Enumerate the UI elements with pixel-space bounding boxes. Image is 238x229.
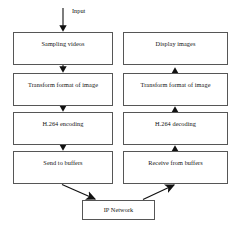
node-transform-format-decode[interactable]: Transform format of image bbox=[123, 73, 228, 106]
node-h264-encoding[interactable]: H.264 encoding bbox=[13, 112, 113, 145]
node-label: H.264 encoding bbox=[42, 121, 83, 137]
node-label: Sampling videos bbox=[41, 41, 84, 57]
node-receive-from-buffers[interactable]: Receive from buffers bbox=[123, 151, 228, 184]
node-label: Transform format of image bbox=[28, 82, 98, 98]
node-transform-format-encode[interactable]: Transform format of image bbox=[13, 73, 113, 106]
node-sampling-videos[interactable]: Sampling videos bbox=[13, 32, 113, 65]
node-label: H.264 decoding bbox=[155, 121, 196, 137]
node-ip-network[interactable]: IP Network bbox=[82, 200, 155, 220]
flowchart-canvas: Input Sampling videos Transform format o… bbox=[0, 0, 238, 229]
node-h264-decoding[interactable]: H.264 decoding bbox=[123, 112, 228, 145]
node-display-images[interactable]: Display images bbox=[123, 32, 228, 65]
node-label: IP Network bbox=[104, 207, 134, 214]
edge-send-to-buffers-to-ip-network bbox=[62, 185, 95, 200]
node-label: Transform format of image bbox=[141, 82, 211, 98]
node-label: Display images bbox=[156, 41, 196, 57]
node-label: Receive from buffers bbox=[148, 160, 203, 176]
node-label: Send to buffers bbox=[43, 160, 82, 176]
edge-sampling-videos-to-transform-format bbox=[59, 65, 66, 73]
edge-transform-format-to-h264-encoding bbox=[59, 105, 66, 112]
input-label: Input bbox=[72, 7, 85, 14]
edge-ip-network-to-receive-from-buffers bbox=[143, 185, 174, 200]
edge-input-to-sampling-videos bbox=[59, 8, 66, 32]
node-send-to-buffers[interactable]: Send to buffers bbox=[13, 151, 113, 184]
edge-h264-encoding-to-send-to-buffers bbox=[59, 144, 66, 151]
